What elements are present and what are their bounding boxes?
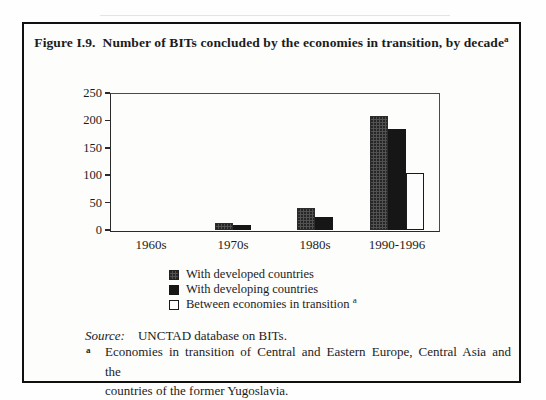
- bar-group-1970s: [192, 93, 274, 230]
- figure-title: Figure I.9.Number of BITs concluded by t…: [24, 35, 519, 51]
- legend-item-developing: With developing countries: [169, 282, 357, 297]
- title-footnote-mark: a: [504, 34, 509, 44]
- scan-artifact-line: [100, 15, 450, 16]
- bar-between-1990-1996: [406, 173, 424, 231]
- y-tick-label: 100: [64, 167, 102, 183]
- legend-footnote-mark: a: [353, 295, 357, 305]
- source-text: UNCTAD database on BITs.: [138, 328, 287, 343]
- bar-developing-1970s: [233, 225, 251, 231]
- bar-developed-1990-1996: [370, 116, 388, 230]
- x-axis-label-1980s: 1980s: [274, 237, 356, 253]
- x-axis-label-1960s: 1960s: [110, 237, 192, 253]
- legend-label-between: Between economies in transition a: [186, 297, 357, 312]
- bar-developed-1980s: [297, 208, 315, 230]
- y-tick-label: 200: [64, 112, 102, 128]
- figure-label: Figure I.9.: [34, 35, 95, 50]
- bar-group-1960s: [110, 93, 192, 230]
- bar-developing-1990-1996: [388, 129, 406, 230]
- bar-group-1990-1996: [356, 93, 438, 230]
- bar-group-1980s: [274, 93, 356, 230]
- y-tick-label: 150: [64, 140, 102, 156]
- bar-developing-1980s: [315, 217, 333, 230]
- bar-developed-1970s: [215, 223, 233, 230]
- footnote-line-2: countries of the former Yugoslavia.: [105, 381, 511, 400]
- x-axis-label-1970s: 1970s: [192, 237, 274, 253]
- scanned-figure-page: Figure I.9.Number of BITs concluded by t…: [0, 0, 546, 400]
- legend-swatch-developed: [169, 270, 179, 280]
- y-tick-label: 250: [64, 85, 102, 101]
- source-label: Source:: [85, 328, 125, 343]
- figure-title-text: Number of BITs concluded by the economie…: [103, 35, 505, 50]
- y-tick-label: 50: [64, 195, 102, 211]
- footnote-text: Economies in transition of Central and E…: [105, 342, 511, 400]
- figure-frame: Figure I.9.Number of BITs concluded by t…: [22, 22, 521, 383]
- legend: With developed countries With developing…: [169, 267, 357, 312]
- legend-swatch-developing: [169, 285, 179, 295]
- legend-item-between: Between economies in transition a: [169, 297, 357, 312]
- footnote-line-1: Economies in transition of Central and E…: [105, 342, 511, 381]
- x-axis-label-1990-1996: 1990-1996: [356, 237, 438, 253]
- y-tick-label: 0: [64, 222, 102, 238]
- legend-swatch-between: [169, 300, 179, 310]
- legend-label-developed: With developed countries: [186, 267, 314, 282]
- legend-label-developing: With developing countries: [186, 282, 318, 297]
- legend-item-developed: With developed countries: [169, 267, 357, 282]
- footnote-mark: a: [86, 345, 91, 355]
